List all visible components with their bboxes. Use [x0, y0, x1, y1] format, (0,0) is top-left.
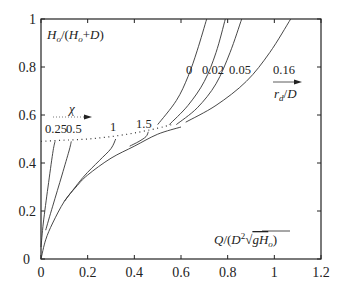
curve-envelope — [41, 127, 181, 259]
x-tick-label: 0.2 — [79, 265, 97, 280]
x-tick-label: 1.2 — [312, 265, 330, 280]
curve--0-25 — [41, 141, 55, 247]
rd-label: rd/D — [274, 86, 297, 103]
data-curves — [41, 19, 291, 259]
x-tick-label: 0.6 — [172, 265, 190, 280]
rd-value-label: 0.02 — [202, 63, 224, 77]
chi-value-label: 0.25 — [45, 122, 67, 136]
chi-value-label: 1.5 — [136, 117, 152, 131]
chi-label: χ — [67, 101, 75, 116]
curve--0-5 — [46, 141, 72, 230]
chi-arrow-head-icon — [84, 115, 92, 120]
x-tick-label: 1 — [271, 265, 278, 280]
axis-tick-labels: 00.20.40.60.811.200.20.40.60.81 — [19, 12, 330, 280]
axis-ticks — [41, 19, 321, 259]
chi-value-label: 1 — [110, 120, 116, 134]
y-tick-label: 1 — [29, 12, 36, 27]
rd-value-label: 0.16 — [273, 63, 295, 77]
rd-arrow-head-icon — [294, 80, 302, 85]
x-tick-label: 0 — [38, 265, 45, 280]
curve-r-d-d-0 — [158, 19, 207, 125]
chi-value-label: 0.5 — [66, 122, 82, 136]
x-tick-label: 0.4 — [126, 265, 144, 280]
rd-value-label: 0.05 — [229, 63, 251, 77]
plot-frame — [41, 19, 321, 259]
y-tick-label: 0.2 — [19, 204, 37, 219]
x-tick-label: 0.8 — [219, 265, 237, 280]
rd-value-label: 0 — [186, 63, 192, 77]
chart: 00.20.40.60.811.200.20.40.60.81 Ho/(Ho+D… — [0, 0, 342, 289]
curve-labels: 0.250.511.500.020.050.16 — [45, 63, 295, 136]
y-tick-label: 0 — [23, 252, 30, 267]
y-axis-title: Ho/(Ho+D) — [46, 27, 104, 44]
y-tick-label: 0.6 — [19, 108, 37, 123]
x-axis-title: Q/(D2√gHo) — [214, 231, 277, 249]
y-tick-label: 0.8 — [19, 60, 37, 75]
y-tick-label: 0.4 — [19, 156, 37, 171]
